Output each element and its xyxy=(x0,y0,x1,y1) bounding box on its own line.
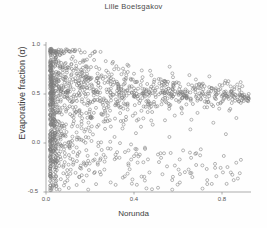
scatter-point xyxy=(113,135,116,138)
scatter-point xyxy=(72,88,75,91)
scatter-point xyxy=(58,188,61,191)
scatter-point xyxy=(106,114,109,117)
scatter-point xyxy=(66,169,69,172)
scatter-point xyxy=(85,174,88,177)
scatter-point xyxy=(121,127,124,130)
scatter-point xyxy=(188,74,191,77)
scatter-point xyxy=(238,172,241,175)
scatter-point xyxy=(151,111,154,114)
scatter-point xyxy=(128,168,131,171)
scatter-point xyxy=(86,116,89,119)
scatter-point xyxy=(139,125,142,128)
scatter-point xyxy=(171,188,174,191)
scatter-point xyxy=(233,86,236,89)
scatter-point xyxy=(104,75,107,78)
scatter-point xyxy=(57,147,60,150)
scatter-point xyxy=(87,159,90,162)
scatter-point xyxy=(134,112,137,115)
scatter-point xyxy=(173,114,176,117)
scatter-point xyxy=(85,112,88,115)
scatter-point xyxy=(93,171,96,174)
scatter-point xyxy=(140,69,143,72)
scatter-point xyxy=(142,161,145,164)
scatter-point xyxy=(89,54,92,57)
scatter-point xyxy=(196,99,199,102)
scatter-point xyxy=(139,83,142,86)
scatter-point xyxy=(63,161,66,164)
scatter-point xyxy=(163,152,166,155)
scatter-point xyxy=(194,91,197,94)
scatter-point xyxy=(187,168,190,171)
scatter-point xyxy=(122,107,125,110)
scatter-point xyxy=(241,85,244,88)
scatter-point xyxy=(81,117,84,120)
scatter-point xyxy=(86,154,89,157)
scatter-point xyxy=(56,98,59,101)
x-tick-label-0.0: 0.0 xyxy=(36,196,56,202)
scatter-point xyxy=(141,76,144,79)
scatter-point xyxy=(105,69,108,72)
scatter-point xyxy=(91,133,94,136)
scatter-point xyxy=(214,166,217,169)
scatter-point xyxy=(103,81,106,84)
scatter-point xyxy=(67,163,70,166)
scatter-point xyxy=(126,70,129,73)
scatter-point xyxy=(232,179,235,182)
scatter-point xyxy=(190,118,193,121)
scatter-point xyxy=(205,167,208,170)
scatter-point xyxy=(161,99,164,102)
scatter-point xyxy=(76,125,79,128)
scatter-point xyxy=(100,149,103,152)
scatter-point xyxy=(160,103,163,106)
scatter-point xyxy=(109,181,112,184)
scatter-point xyxy=(130,158,133,161)
scatter-point xyxy=(174,90,177,93)
scatter-point xyxy=(74,60,77,63)
scatter-point xyxy=(93,58,96,61)
scatter-point xyxy=(125,74,128,77)
scatter-point xyxy=(123,70,126,73)
scatter-point xyxy=(214,162,217,165)
scatter-point xyxy=(80,51,83,54)
scatter-point xyxy=(98,67,101,70)
y-tick-label--0.5: -0.5 xyxy=(22,188,38,194)
scatter-point xyxy=(224,133,227,136)
scatter-point xyxy=(142,117,145,120)
scatter-point xyxy=(225,182,228,185)
scatter-point xyxy=(178,173,181,176)
scatter-point xyxy=(67,186,70,189)
scatter-point xyxy=(152,83,155,86)
scatter-point xyxy=(136,161,139,164)
scatter-point xyxy=(68,105,71,108)
scatter-point xyxy=(109,125,112,128)
scatter-point xyxy=(210,182,213,185)
scatter-point xyxy=(231,98,234,101)
scatter-point xyxy=(119,112,122,115)
scatter-point xyxy=(201,187,204,190)
scatter-point xyxy=(78,114,81,117)
scatter-point xyxy=(141,87,144,90)
scatter-point xyxy=(226,166,229,169)
scatter-point xyxy=(78,61,81,64)
scatter-point xyxy=(103,160,106,163)
scatter-point xyxy=(64,145,67,148)
scatter-point xyxy=(222,154,225,157)
scatter-point xyxy=(97,145,100,148)
scatter-point xyxy=(99,50,102,53)
scatter-point xyxy=(146,158,149,161)
scatter-point xyxy=(182,149,185,152)
scatter-point xyxy=(92,111,95,114)
plot-area xyxy=(46,45,251,192)
scatter-point xyxy=(95,183,98,186)
x-axis-label: Norunda xyxy=(0,209,267,218)
scatter-point xyxy=(236,177,239,180)
scatter-point xyxy=(132,72,135,75)
scatter-point xyxy=(58,120,61,123)
scatter-point xyxy=(145,187,148,190)
scatter-point xyxy=(123,151,126,154)
scatter-point xyxy=(196,111,199,114)
scatter-point xyxy=(60,84,63,87)
scatter-point xyxy=(140,79,143,82)
scatter-point xyxy=(58,164,61,167)
scatter-point xyxy=(71,135,74,138)
